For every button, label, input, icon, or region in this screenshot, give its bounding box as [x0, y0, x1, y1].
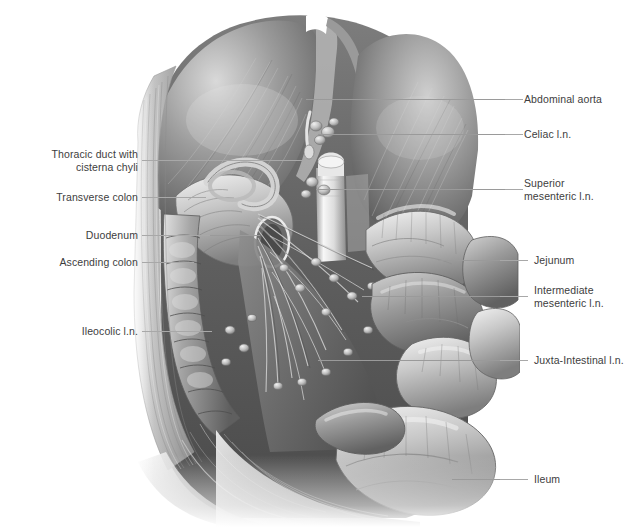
leader-stub-transverse-colon — [142, 197, 206, 198]
leader-line-seg-intermed — [362, 296, 502, 297]
abdominal-cavity — [160, 15, 468, 518]
lymph-nodes — [222, 112, 391, 390]
intermediate-mesenteric-lymph-nodes — [280, 258, 358, 316]
label-transverse-colon[interactable]: Transverse colon — [22, 191, 138, 204]
leader-stub-juxta-intestinal-ln — [500, 360, 528, 361]
leader-line-seg-celiac — [318, 134, 506, 135]
lateral-bowel-coils — [463, 236, 520, 379]
leader-stub-ileocolic-ln — [142, 331, 212, 332]
ileum-upper-coil — [396, 337, 496, 418]
juxta-intestinal-lymph-nodes — [274, 282, 391, 389]
leader-line-seg-jejunum — [438, 260, 502, 261]
cisterna-chyli — [304, 112, 314, 159]
ileum — [315, 402, 496, 515]
label-intermediate-mesenteric-ln[interactable]: Intermediate mesenteric l.n. — [534, 284, 604, 309]
ileocolic-lymph-nodes — [222, 314, 257, 365]
leader-stub-duodenum — [142, 235, 210, 236]
abdominal-aorta-vessel — [316, 153, 370, 263]
leader-line-seg-aorta — [306, 99, 506, 100]
pelvic-wall — [216, 430, 420, 527]
leader-line-seg-suma — [316, 189, 506, 190]
leader-stub-jejunum — [500, 260, 528, 261]
label-duodenum[interactable]: Duodenum — [52, 229, 138, 242]
label-thoracic-duct[interactable]: Thoracic duct with cisterna chyli — [30, 148, 138, 173]
ascending-colon — [163, 214, 240, 436]
leader-line-seg-ileum — [452, 479, 502, 480]
leader-stub-ascending-colon — [142, 262, 194, 263]
anatomy-plate: Thoracic duct with cisterna chyliTransve… — [0, 0, 633, 527]
superior-mesenteric-lymph-nodes — [301, 177, 330, 198]
jejunum-mid-coils — [371, 272, 484, 355]
label-ileum[interactable]: Ileum — [534, 473, 560, 486]
leader-stub-abdominal-aorta — [505, 99, 523, 100]
leader-stub-superior-mesenteric-ln — [505, 189, 523, 190]
anatomy-artwork-svg — [120, 0, 520, 527]
label-abdominal-aorta[interactable]: Abdominal aorta — [524, 93, 602, 106]
label-superior-mesenteric-ln[interactable]: Superior mesenteric l.n. — [524, 177, 594, 202]
leader-stub-celiac-ln — [505, 134, 523, 135]
abdominal-wall — [134, 66, 326, 527]
leader-stub-ileum — [500, 479, 528, 480]
leader-stub-thoracic-duct — [142, 160, 306, 161]
leader-line-seg-juxta — [318, 360, 502, 361]
leader-stub-intermediate-mesenteric-ln — [500, 296, 528, 297]
anatomy-illustration — [120, 0, 520, 527]
label-jejunum[interactable]: Jejunum — [534, 254, 574, 267]
label-ileocolic-ln[interactable]: Ileocolic l.n. — [46, 325, 138, 338]
label-ascending-colon[interactable]: Ascending colon — [26, 256, 138, 269]
mesentery — [238, 214, 388, 452]
label-celiac-ln[interactable]: Celiac l.n. — [524, 128, 571, 141]
diaphragm — [148, 13, 478, 240]
jejunum — [366, 206, 478, 293]
duodenum — [176, 162, 293, 267]
label-juxta-intestinal-ln[interactable]: Juxta-Intestinal l.n. — [534, 354, 624, 367]
celiac-lymph-nodes — [310, 118, 339, 145]
